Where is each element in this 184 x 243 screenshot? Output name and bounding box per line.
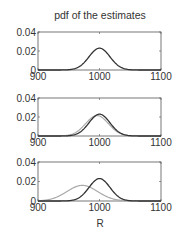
panel-1-series-dark: [38, 48, 161, 70]
panel-3-xtick-label: 1100: [150, 202, 172, 213]
panel-3-axes-box: [38, 162, 161, 201]
panel-1-ytick-label: 0.04: [17, 27, 37, 38]
panel-2-xtick-label: 1000: [88, 137, 111, 148]
panel-1-xtick-label: 1100: [150, 71, 172, 82]
x-axis-label: R: [96, 218, 103, 229]
chart: pdf of the estimates R 00.020.0490010001…: [0, 0, 184, 243]
panel-1-xtick-label: 900: [30, 71, 47, 82]
panel-3-xtick-label: 1000: [88, 202, 111, 213]
panel-3-series-gray: [38, 185, 161, 201]
panel-2-series-dark: [38, 114, 161, 136]
panel-2-xtick-label: 900: [30, 137, 47, 148]
panel-3-xtick-label: 900: [30, 202, 47, 213]
panel-2-axes-box: [38, 98, 161, 136]
panel-2-ytick-label: 0.04: [17, 93, 37, 104]
panel-2-ytick-label: 0.02: [17, 112, 37, 123]
panel-2-series-gray: [38, 116, 161, 136]
panel-1-ytick-label: 0.02: [17, 46, 37, 57]
panel-2-xtick-label: 1100: [150, 137, 172, 148]
panel-1-axes-box: [38, 32, 161, 70]
chart-title: pdf of the estimates: [54, 9, 146, 21]
panel-3-ytick-label: 0.04: [17, 157, 37, 168]
panel-1-xtick-label: 1000: [88, 71, 111, 82]
panel-3-ytick-label: 0.02: [17, 176, 37, 187]
